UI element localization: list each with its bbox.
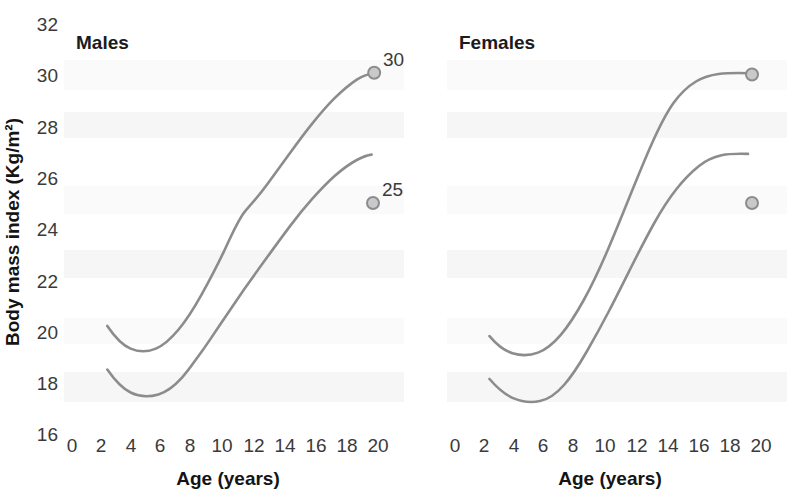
endpoint-marker-males-obesity	[368, 67, 380, 79]
x-tick-females-16: 16	[688, 435, 709, 456]
x-tick-males-0: 0	[67, 435, 78, 456]
panel-title-males: Males	[76, 32, 129, 53]
x-tick-females-18: 18	[719, 435, 740, 456]
y-tick-22: 22	[37, 271, 58, 292]
endpoint-label-males-obesity: 30	[383, 49, 404, 70]
x-axis-title-males: Age (years)	[176, 468, 280, 489]
y-axis-ticks: 32 30 28 26 24 22 20 18 16	[37, 14, 59, 445]
y-axis-title: Body mass index (Kg/m²)	[2, 118, 23, 346]
x-axis-title-females: Age (years)	[558, 468, 662, 489]
endpoint-marker-males-overweight	[367, 197, 379, 209]
y-tick-16: 16	[37, 424, 58, 445]
x-tick-females-10: 10	[594, 435, 615, 456]
x-axis-ticks-males: 0 2 4 6 8 10 12 14 16 18 20	[67, 435, 389, 456]
y-tick-26: 26	[37, 168, 58, 189]
x-tick-females-14: 14	[657, 435, 679, 456]
endpoint-marker-females-obesity	[746, 69, 758, 81]
bmi-centile-chart: 32 30 28 26 24 22 20 18 16 Body mass ind…	[0, 0, 804, 504]
x-tick-males-12: 12	[243, 435, 264, 456]
x-tick-females-12: 12	[626, 435, 647, 456]
x-tick-females-0: 0	[450, 435, 461, 456]
y-tick-30: 30	[37, 65, 58, 86]
x-tick-females-8: 8	[568, 435, 579, 456]
x-tick-males-14: 14	[274, 435, 296, 456]
x-tick-males-4: 4	[126, 435, 137, 456]
x-tick-males-6: 6	[155, 435, 166, 456]
y-tick-24: 24	[37, 219, 59, 240]
x-tick-males-10: 10	[211, 435, 232, 456]
x-tick-females-4: 4	[509, 435, 520, 456]
x-tick-males-8: 8	[185, 435, 196, 456]
x-tick-males-18: 18	[336, 435, 357, 456]
background-bands	[64, 60, 787, 402]
x-tick-females-20: 20	[750, 435, 771, 456]
endpoint-marker-females-overweight	[746, 197, 758, 209]
figure-root: 32 30 28 26 24 22 20 18 16 Body mass ind…	[0, 0, 804, 504]
endpoint-label-males-overweight: 25	[382, 179, 403, 200]
x-tick-males-16: 16	[305, 435, 326, 456]
x-tick-females-2: 2	[479, 435, 490, 456]
y-tick-20: 20	[37, 322, 58, 343]
x-tick-males-2: 2	[96, 435, 107, 456]
x-tick-males-20: 20	[367, 435, 388, 456]
x-axis-ticks-females: 0 2 4 6 8 10 12 14 16 18 20	[450, 435, 772, 456]
panel-title-females: Females	[459, 32, 535, 53]
y-tick-32: 32	[37, 14, 58, 35]
x-tick-females-6: 6	[538, 435, 549, 456]
y-tick-28: 28	[37, 117, 58, 138]
y-tick-18: 18	[37, 373, 58, 394]
